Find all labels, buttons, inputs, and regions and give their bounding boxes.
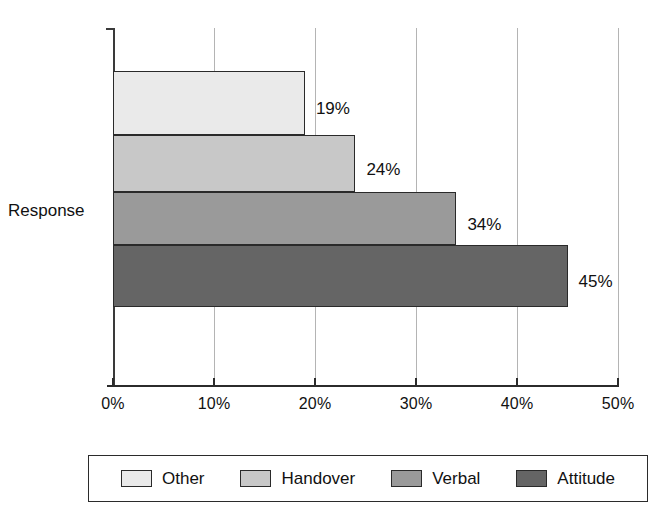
x-tick-20pct [314, 378, 316, 387]
x-tick-label-20pct: 20% [299, 395, 332, 413]
x-tick-30pct [415, 378, 417, 387]
gridline-50pct [618, 28, 619, 385]
category-axis-title: Response [8, 201, 85, 221]
bar-attitude[interactable] [113, 245, 568, 307]
legend-swatch-other [121, 470, 152, 487]
x-tick-label-30pct: 30% [400, 395, 433, 413]
legend-item-handover[interactable]: Handover [240, 469, 355, 489]
legend-label-other: Other [162, 469, 205, 489]
x-tick-label-10pct: 10% [198, 395, 231, 413]
bar-value-label-attitude: 45% [579, 272, 613, 292]
legend-item-attitude[interactable]: Attitude [516, 469, 615, 489]
x-tick-label-40pct: 40% [501, 395, 534, 413]
legend-label-verbal: Verbal [432, 469, 480, 489]
x-axis-line [107, 385, 619, 387]
legend-swatch-handover [240, 470, 271, 487]
bar-value-label-other: 19% [316, 99, 350, 119]
chart-legend: OtherHandoverVerbalAttitude [88, 455, 648, 502]
bar-other[interactable] [113, 71, 305, 135]
legend-label-attitude: Attitude [557, 469, 615, 489]
x-tick-label-50pct: 50% [602, 395, 635, 413]
x-tick-10pct [213, 378, 215, 387]
legend-swatch-attitude [516, 470, 547, 487]
bar-value-label-verbal: 34% [467, 215, 501, 235]
legend-swatch-verbal [391, 470, 422, 487]
legend-item-verbal[interactable]: Verbal [391, 469, 480, 489]
legend-label-handover: Handover [281, 469, 355, 489]
x-tick-0pct [112, 378, 114, 387]
bar-value-label-handover: 24% [366, 160, 400, 180]
gridline-40pct [517, 28, 518, 385]
legend-item-other[interactable]: Other [121, 469, 205, 489]
bar-handover[interactable] [113, 135, 355, 192]
x-tick-label-0pct: 0% [101, 395, 125, 413]
bar-verbal[interactable] [113, 192, 456, 245]
x-tick-40pct [516, 378, 518, 387]
x-tick-50pct [617, 378, 619, 387]
bar-chart: Response 0%10%20%30%40%50% 19%24%34%45% … [0, 0, 671, 522]
